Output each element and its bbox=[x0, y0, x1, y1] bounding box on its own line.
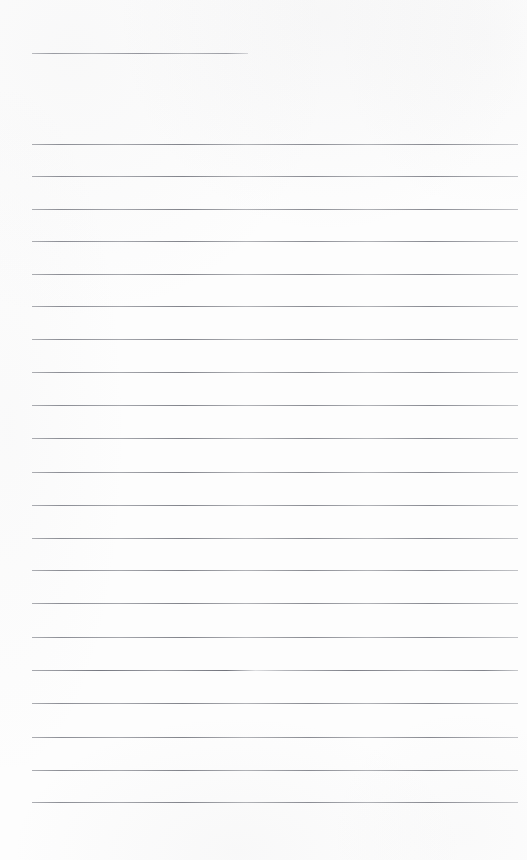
scanned-page bbox=[0, 0, 527, 860]
writing-line-14 bbox=[32, 570, 518, 571]
writing-line-19 bbox=[32, 737, 518, 738]
writing-line-5 bbox=[32, 274, 518, 275]
writing-line-7 bbox=[32, 339, 518, 340]
writing-line-20 bbox=[32, 770, 518, 771]
writing-line-15 bbox=[32, 603, 518, 604]
writing-line-1 bbox=[32, 144, 518, 145]
writing-line-3 bbox=[32, 209, 518, 210]
title-blank-rule bbox=[32, 53, 248, 54]
writing-line-17 bbox=[32, 670, 518, 671]
writing-line-4 bbox=[32, 241, 518, 242]
writing-line-10 bbox=[32, 438, 518, 439]
writing-line-21 bbox=[32, 802, 518, 803]
writing-line-16 bbox=[32, 637, 518, 638]
writing-line-6 bbox=[32, 306, 518, 307]
writing-line-11 bbox=[32, 472, 518, 473]
scan-texture-overlay bbox=[0, 0, 527, 860]
writing-line-2 bbox=[32, 176, 518, 177]
writing-line-12 bbox=[32, 505, 518, 506]
writing-line-9 bbox=[32, 405, 518, 406]
writing-line-18 bbox=[32, 703, 518, 704]
writing-line-8 bbox=[32, 372, 518, 373]
writing-line-13 bbox=[32, 538, 518, 539]
